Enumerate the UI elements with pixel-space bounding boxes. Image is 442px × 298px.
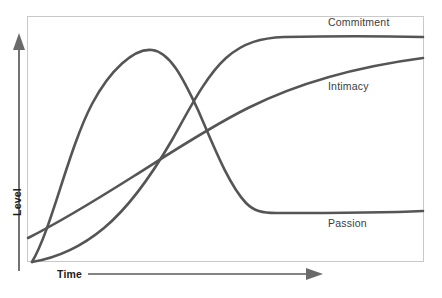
series-label-intimacy: Intimacy [328,80,369,92]
y-axis-title: Level [11,179,23,225]
chart-figure: Commitment Intimacy Passion Time Level [0,0,442,298]
chart-curves [0,0,442,298]
series-label-commitment: Commitment [328,16,390,28]
series-label-passion: Passion [328,217,367,229]
y-axis-arrow [13,33,25,271]
x-axis-title: Time [57,268,82,280]
x-axis-arrow [88,268,323,280]
